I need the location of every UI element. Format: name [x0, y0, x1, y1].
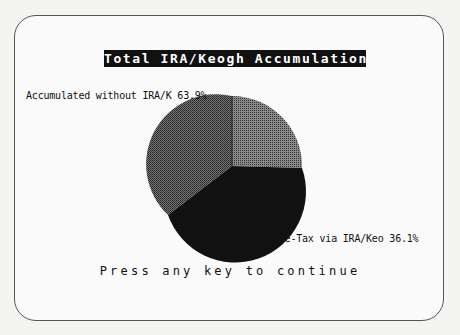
- slice-label-accumulated: Accumulated without IRA/K 63.9%: [26, 90, 206, 101]
- pie-chart: [0, 0, 460, 335]
- continue-prompt[interactable]: Press any key to continue: [0, 264, 460, 278]
- slice-label-extra-pretax: Extra Pre-Tax via IRA/Keo 36.1%: [238, 233, 418, 244]
